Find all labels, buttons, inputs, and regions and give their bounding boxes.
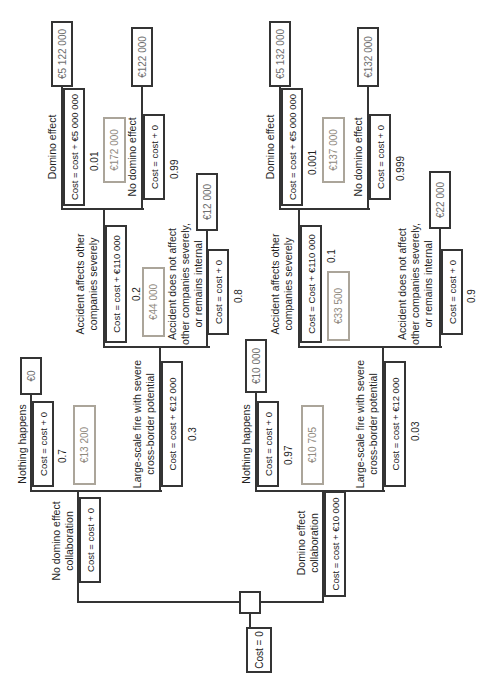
root-decision-node — [239, 591, 261, 614]
branch-label-f1: Domino effect — [264, 88, 277, 206]
branch-label-a1: Nothing happens — [16, 399, 29, 489]
cost-box-f2: Cost = cost + 0 — [369, 114, 391, 200]
chance-node-f-junction — [280, 208, 370, 210]
branch-label-c2: No domino effect — [126, 114, 139, 200]
cost-box-collab: Cost = cost + €10 000 — [324, 491, 346, 597]
terminal-value-d1: €10 000 — [245, 339, 267, 393]
probability-b1: 0.2 — [131, 287, 142, 301]
branch-label-f2: No domino effect — [352, 114, 365, 200]
terminal-value-f1: €5 132 000 — [269, 21, 291, 87]
branch-label-d2: Large-scale fire with severe cross-borde… — [354, 356, 380, 492]
cost-box-d2: Cost = cost + €12 000 — [384, 361, 406, 487]
expected-value-box-b: €44 000 — [142, 267, 165, 337]
probability-c2: 0.99 — [169, 160, 180, 179]
cost-box-a2: Cost = cost + €12 000 — [161, 361, 183, 487]
root-cost-box: Cost = 0 — [246, 627, 272, 673]
branch-label-d1: Nothing happens — [240, 399, 253, 489]
branch-label-a2: Large-scale fire with severe cross-borde… — [131, 356, 157, 492]
branch-label-e2: Accident does not affect other companies… — [396, 217, 435, 351]
cost-box-f1: Cost = cost + €5 000 000 — [281, 88, 303, 206]
cost-box-b1: Cost = cost + €110 000 — [105, 225, 127, 343]
probability-d1: 0.97 — [283, 446, 294, 465]
probability-c1: 0.01 — [89, 152, 100, 171]
probability-e1: 0.1 — [326, 249, 337, 263]
expected-value-box-d: €10 705 — [301, 405, 324, 485]
terminal-value-a1: €0 — [20, 357, 42, 395]
expected-value-box-c: €172 000 — [103, 117, 126, 183]
cost-box-b2: Cost = cost + 0 — [207, 249, 229, 335]
cost-box-e2: Cost = cost + 0 — [441, 249, 463, 335]
expected-value-box-e: €33 500 — [327, 271, 350, 341]
probability-d2: 0.03 — [410, 422, 421, 441]
root-cost-label: Cost = 0 — [254, 631, 265, 669]
terminal-value-e2: €22 000 — [429, 171, 451, 229]
probability-b2: 0.8 — [233, 289, 244, 303]
probability-e2: 0.9 — [466, 289, 477, 303]
terminal-value-f2: €132 000 — [357, 27, 379, 87]
expected-value-box-a: €13 200 — [73, 405, 96, 485]
branch-label-b1: Accident affects other companies severel… — [74, 225, 100, 343]
root-trunk-line — [78, 601, 323, 603]
expected-value-box-f: €137 000 — [322, 117, 345, 183]
cost-box-e1: Cost = Cost + €110 000 — [300, 225, 322, 343]
decision-tree-diagram: Cost = 0 No domino effect collaboration … — [0, 0, 483, 687]
probability-a1: 0.7 — [57, 449, 68, 463]
branch-label-no-collab: No domino effect collaboration — [50, 485, 76, 597]
cost-box-d1: Cost = cost + 0 — [257, 401, 279, 487]
branch-label-e1: Accident affects other companies severel… — [269, 225, 295, 343]
rotated-tree-stage: Cost = 0 No domino effect collaboration … — [0, 0, 483, 687]
terminal-value-b2: €12 000 — [196, 173, 218, 231]
terminal-value-c2: €122 000 — [131, 27, 153, 87]
terminal-value-c1: €5 122 000 — [51, 21, 73, 87]
probability-f2: 0.999 — [395, 156, 406, 181]
cost-box-no-collab: Cost = cost + 0 — [79, 497, 101, 583]
branch-label-collab: Domino effect collaboration — [295, 487, 321, 599]
cost-box-a1: Cost = cost + 0 — [32, 401, 54, 487]
cost-box-c1: Cost = cost + €5 000 000 — [63, 88, 85, 206]
branch-label-c1: Domino effect — [46, 88, 59, 206]
probability-f1: 0.001 — [307, 150, 318, 175]
probability-a2: 0.3 — [187, 427, 198, 441]
branch-label-b2: Accident does not affect other companies… — [166, 217, 205, 351]
cost-box-c2: Cost = cost + 0 — [143, 114, 165, 200]
